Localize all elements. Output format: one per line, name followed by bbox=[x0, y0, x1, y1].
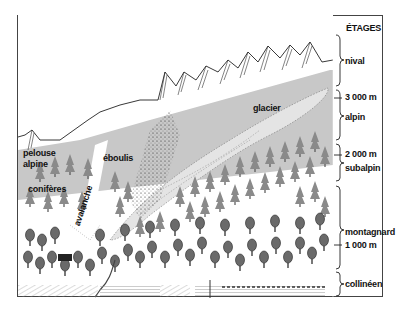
mountain-illustration bbox=[0, 0, 400, 314]
village-building bbox=[58, 254, 72, 261]
label-glacier: glacier bbox=[253, 103, 281, 113]
valley-fields bbox=[18, 280, 325, 298]
label-pelouse: pelouse bbox=[23, 148, 56, 158]
brace-montagnard bbox=[336, 186, 344, 269]
label-alpine: alpine bbox=[23, 159, 48, 169]
altitude-1000: 1 000 m bbox=[345, 240, 377, 250]
zone-label-montagnard: montagnard bbox=[345, 227, 395, 237]
altitude-3000: 3 000 m bbox=[345, 92, 377, 102]
label-coniferes: conifères bbox=[28, 184, 66, 194]
zone-braces bbox=[334, 35, 344, 296]
header-etages: ÉTAGES bbox=[346, 23, 381, 33]
brace-nival bbox=[336, 35, 344, 86]
zone-label-nival: nival bbox=[345, 56, 365, 66]
label-eboulis: éboulis bbox=[103, 153, 133, 163]
brace-subalpin bbox=[336, 144, 344, 181]
brace-alpin bbox=[336, 90, 344, 140]
zone-label-collineen: collinéen bbox=[345, 279, 382, 289]
brace-collineen bbox=[336, 272, 344, 296]
deciduous-forest bbox=[24, 213, 329, 276]
zone-label-alpin: alpin bbox=[345, 112, 365, 122]
zone-label-subalpin: subalpin bbox=[345, 163, 380, 173]
altitude-2000: 2 000 m bbox=[345, 149, 377, 159]
